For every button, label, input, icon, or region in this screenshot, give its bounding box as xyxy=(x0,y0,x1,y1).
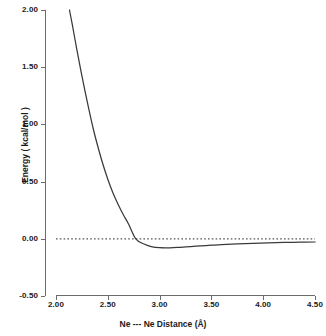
y-axis-title: Energy ( kcal/mol ) xyxy=(20,65,30,225)
x-tick-label-5: 4.50 xyxy=(295,300,326,309)
y-tick-4 xyxy=(41,239,45,240)
y-tick-label-5: -0.50 xyxy=(2,291,38,300)
y-tick-5 xyxy=(41,296,45,297)
y-tick-label-0: 2.00 xyxy=(2,5,38,14)
y-tick-2 xyxy=(41,124,45,125)
y-tick-1 xyxy=(41,67,45,68)
y-tick-label-4: 0.00 xyxy=(2,234,38,243)
energy-curve-path xyxy=(69,10,315,248)
x-tick-label-3: 3.50 xyxy=(191,300,231,309)
curve-canvas xyxy=(56,10,315,296)
x-tick-label-2: 3.00 xyxy=(140,300,180,309)
x-tick-label-4: 4.00 xyxy=(243,300,283,309)
x-tick-label-0: 2.00 xyxy=(36,300,76,309)
x-tick-label-1: 2.50 xyxy=(88,300,128,309)
y-axis-line xyxy=(45,10,46,296)
x-axis-title: Ne --- Ne Distance (Å) xyxy=(0,319,326,329)
plot-area xyxy=(56,10,315,296)
y-tick-3 xyxy=(41,182,45,183)
y-tick-0 xyxy=(41,10,45,11)
potential-energy-chart: 2.002.503.003.504.004.502.001.501.000.50… xyxy=(0,0,326,336)
